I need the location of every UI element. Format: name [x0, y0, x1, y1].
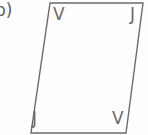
vertex-label-bottom-right: V — [112, 110, 124, 127]
vertex-label-bottom-left: J — [32, 110, 37, 127]
vertex-label-top-right: J — [130, 6, 135, 23]
parallelogram-outline — [31, 3, 143, 133]
parallelogram-diagram — [0, 0, 148, 135]
figure-container: b) V J J V — [0, 0, 148, 135]
vertex-label-top-left: V — [53, 6, 65, 23]
